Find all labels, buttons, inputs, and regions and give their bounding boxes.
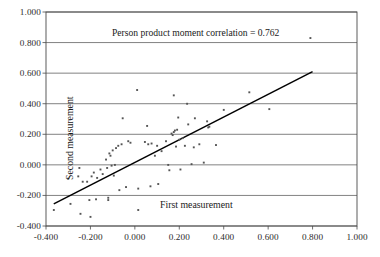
data-point	[191, 163, 193, 165]
data-point-group	[53, 37, 311, 218]
data-point	[53, 209, 55, 211]
data-point	[172, 134, 174, 136]
data-point	[187, 123, 189, 125]
y-axis-tick-label: 0.200	[20, 129, 41, 139]
data-point	[93, 172, 95, 174]
data-point	[91, 175, 93, 177]
data-point	[115, 147, 117, 149]
data-point	[106, 167, 108, 169]
data-point	[100, 169, 102, 171]
data-point	[194, 117, 196, 119]
data-point	[157, 183, 159, 185]
data-point	[86, 181, 88, 183]
data-point	[165, 140, 167, 142]
data-point	[223, 109, 225, 111]
data-point	[137, 188, 139, 190]
data-point	[186, 103, 188, 105]
data-point	[108, 152, 110, 154]
y-axis-tick-label: -0.200	[17, 190, 41, 200]
data-point	[112, 149, 114, 151]
data-point	[150, 185, 152, 187]
data-point	[125, 186, 127, 188]
data-point	[198, 143, 200, 145]
chart-canvas	[0, 0, 380, 257]
data-point	[206, 120, 208, 122]
y-axis-tick-label: 0.000	[20, 160, 41, 170]
x-axis-tick-label: 1.000	[346, 232, 367, 242]
data-point	[248, 91, 250, 93]
data-point	[154, 155, 156, 157]
data-point	[208, 126, 210, 128]
data-point	[203, 162, 205, 164]
data-point	[175, 146, 177, 148]
data-point	[167, 164, 169, 166]
data-point	[151, 143, 153, 145]
data-point	[88, 199, 90, 201]
x-axis-tick-label: -0.200	[78, 232, 102, 242]
y-axis-label: Second measurement	[64, 96, 75, 180]
x-axis-tick-label: 0.000	[124, 232, 145, 242]
data-point	[156, 145, 158, 147]
data-point	[146, 125, 148, 127]
data-point	[144, 141, 146, 143]
data-point	[122, 117, 124, 119]
y-axis-tick-label: -0.400	[17, 221, 41, 231]
data-point	[176, 129, 178, 131]
data-point	[110, 155, 112, 157]
scatter-chart: -0.400-0.2000.0000.2000.4000.6000.8001.0…	[0, 0, 380, 257]
data-point	[118, 189, 120, 191]
x-axis-tick-label: 0.600	[258, 232, 279, 242]
data-point	[147, 143, 149, 145]
data-point	[121, 143, 123, 145]
data-point	[117, 145, 119, 147]
data-point	[114, 164, 116, 166]
y-axis-tick-label: 1.000	[20, 7, 41, 17]
data-point	[107, 199, 109, 201]
data-point	[130, 142, 132, 144]
data-point	[161, 150, 163, 152]
data-point	[177, 117, 179, 119]
y-axis-tick-label: 0.600	[20, 68, 41, 78]
data-point	[77, 175, 79, 177]
data-point	[90, 216, 92, 218]
data-point	[184, 145, 186, 147]
data-point	[96, 177, 98, 179]
data-point	[95, 198, 97, 200]
y-axis-tick-label: 0.800	[20, 38, 41, 48]
data-point	[193, 146, 195, 148]
data-point	[111, 165, 113, 167]
x-axis-tick-label: 0.800	[302, 232, 323, 242]
data-point	[70, 203, 72, 205]
data-point	[309, 37, 311, 39]
data-point	[215, 144, 217, 146]
data-point	[182, 137, 184, 139]
data-point	[105, 159, 107, 161]
data-point	[174, 130, 176, 132]
correlation-annotation: Person product moment correlation = 0.76…	[112, 27, 279, 38]
x-axis-label: First measurement	[160, 199, 233, 210]
data-point	[136, 89, 138, 91]
data-point	[82, 181, 84, 183]
data-point	[178, 139, 180, 141]
data-point	[102, 173, 104, 175]
data-point	[168, 169, 170, 171]
data-point	[173, 94, 175, 96]
data-point	[268, 108, 270, 110]
data-point	[107, 197, 109, 199]
x-axis-tick-label: -0.400	[34, 232, 58, 242]
data-point	[78, 167, 80, 169]
data-point	[137, 209, 139, 211]
data-point	[179, 169, 181, 171]
data-point	[113, 175, 115, 177]
x-axis-tick-label: 0.200	[169, 232, 190, 242]
data-point	[127, 140, 129, 142]
plot-frame	[46, 12, 357, 226]
data-point	[80, 213, 82, 215]
y-axis-tick-label: 0.400	[20, 99, 41, 109]
x-axis-tick-label: 0.400	[213, 232, 234, 242]
